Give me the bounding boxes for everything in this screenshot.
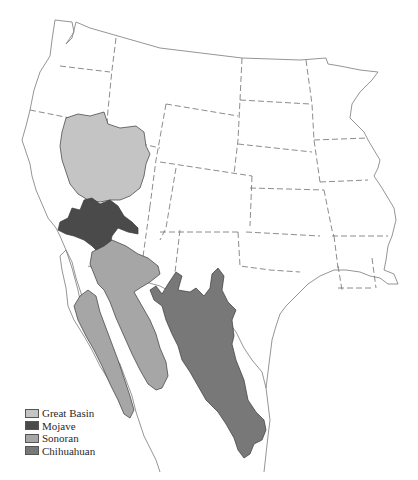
legend: Great Basin Mojave Sonoran Chihuahuan [25, 407, 95, 457]
region-great-basin [60, 112, 150, 202]
legend-swatch-chihuahuan [25, 446, 39, 455]
legend-label: Chihuahuan [42, 445, 95, 457]
legend-item-mojave: Mojave [25, 420, 95, 432]
legend-label: Great Basin [42, 407, 94, 419]
legend-item-chihuahuan: Chihuahuan [25, 445, 95, 457]
legend-label: Mojave [42, 420, 76, 432]
region-sonoran [90, 240, 168, 390]
legend-item-sonoran: Sonoran [25, 432, 95, 444]
legend-swatch-sonoran [25, 434, 39, 443]
region-chihuahuan [150, 268, 266, 458]
region-mojave [58, 198, 138, 252]
west-coast [22, 20, 160, 472]
legend-label: Sonoran [42, 432, 79, 444]
legend-swatch-great-basin [25, 409, 39, 418]
legend-swatch-mojave [25, 421, 39, 430]
legend-item-great-basin: Great Basin [25, 407, 95, 419]
